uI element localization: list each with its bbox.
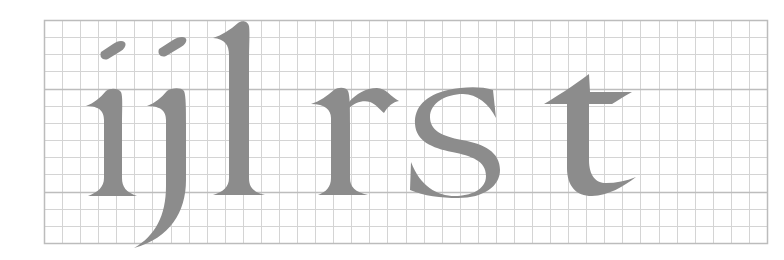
lettering-diagram (0, 0, 784, 260)
